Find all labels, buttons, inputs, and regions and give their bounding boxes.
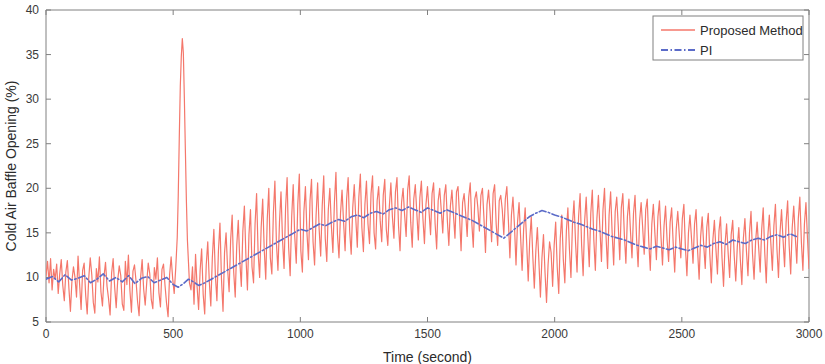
x-axis-title: Time (second) xyxy=(383,349,472,364)
y-tick-label: 35 xyxy=(26,48,40,62)
x-tick-label: 500 xyxy=(163,327,183,341)
legend-label-1: Proposed Method xyxy=(700,23,803,38)
x-tick-label: 0 xyxy=(43,327,50,341)
y-tick-label: 30 xyxy=(26,92,40,106)
x-tick-label: 1000 xyxy=(287,327,314,341)
chart-plot: 510152025303540050010001500200025003000T… xyxy=(0,0,825,364)
y-tick-label: 15 xyxy=(26,226,40,240)
x-tick-label: 2500 xyxy=(668,327,695,341)
chart-figure: 510152025303540050010001500200025003000T… xyxy=(0,0,825,364)
x-tick-label: 3000 xyxy=(796,327,823,341)
y-tick-label: 25 xyxy=(26,137,40,151)
y-tick-label: 20 xyxy=(26,181,40,195)
legend-label-2: PI xyxy=(700,43,712,58)
y-tick-label: 10 xyxy=(26,270,40,284)
x-tick-label: 2000 xyxy=(541,327,568,341)
y-tick-label: 40 xyxy=(26,3,40,17)
y-axis-title: Cold Air Baffle Opening (%) xyxy=(3,81,19,252)
y-tick-label: 5 xyxy=(32,315,39,329)
x-tick-label: 1500 xyxy=(414,327,441,341)
